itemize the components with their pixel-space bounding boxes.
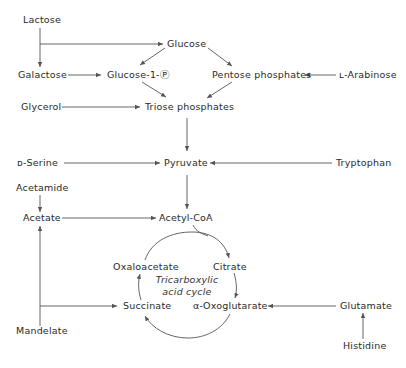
node-glutamate: Glutamate [340,300,392,312]
node-pentose-phosphates: Pentose phosphates [212,69,311,81]
node-mandelate: Mandelate [16,325,68,337]
node-oxaloacetate: Oxaloacetate [113,261,179,273]
node-citrate: Citrate [213,261,247,273]
arc-oxaloacetate-citrate [145,232,229,260]
node-l-arabinose: ʟ-Arabinose [339,69,397,81]
cycle-label-line2: acid cycle [154,286,220,298]
node-alpha-oxoglutarate: α-Oxoglutarate [193,300,268,312]
arc-succinate-oxaloacetate [139,274,141,300]
node-histidine: Histidine [343,340,386,352]
node-d-serine: ᴅ-Serine [17,157,58,169]
arrow-glucose1p-triose [142,82,166,97]
node-lactose: Lactose [23,14,61,26]
node-acetyl-coa: Acetyl-CoA [159,212,213,224]
cycle-label-line1: Tricarboxylic [154,274,220,286]
node-glycerol: Glycerol [21,101,61,113]
node-glucose-1-phosphate: Glucose-1-Ⓟ [107,69,170,81]
arrow-glucose-pentose [208,48,232,66]
metabolic-pathway-diagram: Lactose Glucose Galactose Glucose-1-Ⓟ Pe… [0,0,406,368]
node-acetate: Acetate [23,212,61,224]
node-glucose: Glucose [167,38,206,50]
node-galactose: Galactose [18,69,67,81]
node-pyruvate: Pyruvate [164,157,208,169]
arrow-glucose-glucose1p [140,48,165,65]
node-tryptophan: Tryptophan [336,157,391,169]
node-acetamide: Acetamide [16,182,69,194]
arrow-pentose-triose [207,82,232,98]
node-triose-phosphates: Triose phosphates [145,101,234,113]
node-succinate: Succinate [123,300,171,312]
arc-oxoglutarate-succinate [145,314,230,338]
arrow-acetylcoa-into-cycle [193,225,208,236]
arc-citrate-oxoglutarate [234,273,236,298]
